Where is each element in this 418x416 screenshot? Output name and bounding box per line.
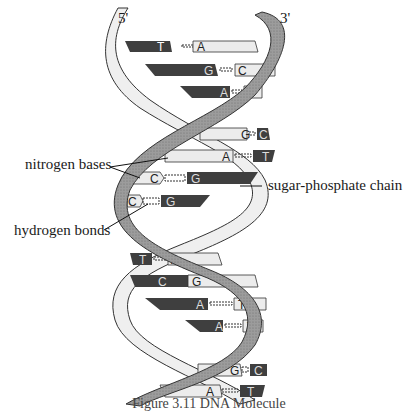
svg-text:C: C [128, 195, 137, 209]
dna-diagram: T A G C A T G C [0, 0, 418, 416]
hydrogen-bonds-label: hydrogen bonds [14, 222, 110, 239]
svg-text:A: A [215, 320, 223, 334]
base-pair: C G [127, 195, 210, 209]
svg-text:C: C [158, 275, 167, 289]
base-pair: A T [165, 150, 275, 164]
base-pair: T A [125, 40, 258, 54]
svg-text:G: G [241, 128, 250, 142]
svg-text:T: T [157, 40, 165, 54]
svg-text:A: A [222, 150, 230, 164]
svg-text:G: G [204, 64, 213, 78]
svg-text:C: C [238, 64, 247, 78]
svg-text:G: G [191, 172, 200, 186]
base-pair: G C [200, 128, 270, 142]
svg-text:G: G [166, 195, 175, 209]
svg-text:G: G [192, 275, 201, 289]
svg-text:T: T [262, 150, 270, 164]
sugar-phosphate-chain-label: sugar-phosphate chain [268, 177, 402, 194]
three-prime-label: 3' [280, 10, 290, 27]
base-pair: C G [133, 172, 258, 186]
svg-text:C: C [150, 172, 159, 186]
svg-text:T: T [139, 253, 147, 267]
figure-caption: Figure 3.11 DNA Molecule [0, 396, 418, 412]
five-prime-label: 5' [118, 10, 128, 27]
svg-text:A: A [197, 40, 205, 54]
nitrogen-bases-label: nitrogen bases [25, 156, 111, 173]
svg-text:C: C [259, 128, 268, 142]
svg-text:C: C [254, 364, 263, 378]
svg-text:A: A [220, 86, 228, 100]
svg-text:A: A [196, 298, 204, 312]
